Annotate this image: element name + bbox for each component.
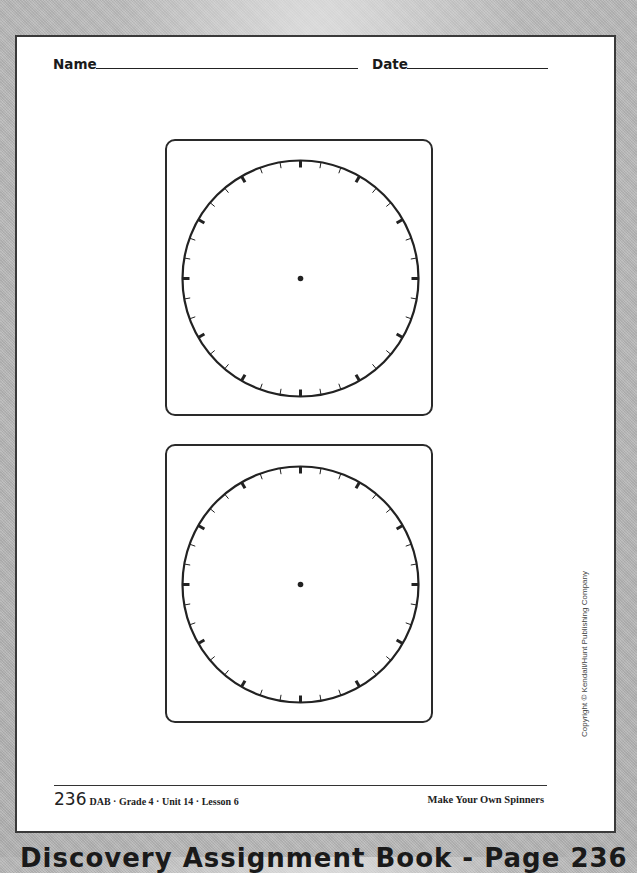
- minor-tick: [386, 656, 391, 660]
- minor-tick: [225, 494, 229, 499]
- major-tick: [356, 176, 360, 182]
- minor-tick: [406, 317, 412, 319]
- spinner-circle-2[interactable]: [167, 446, 435, 725]
- minor-tick: [190, 623, 196, 625]
- minor-tick: [386, 509, 391, 513]
- center-dot: [298, 582, 304, 588]
- footer-page-info: 236DAB · Grade 4 · Unit 14 · Lesson 6: [54, 789, 239, 809]
- minor-tick: [210, 509, 215, 513]
- major-tick: [242, 482, 246, 488]
- minor-tick: [210, 350, 215, 354]
- minor-tick: [372, 494, 376, 499]
- page-number: 236: [54, 789, 86, 809]
- copyright-notice: Copyright © Kendall/Hunt Publishing Comp…: [580, 571, 589, 737]
- major-tick: [242, 176, 246, 182]
- minor-tick: [260, 474, 262, 480]
- book-meta: DAB · Grade 4 · Unit 14 · Lesson 6: [89, 796, 238, 807]
- minor-tick: [386, 203, 391, 207]
- minor-tick: [225, 670, 229, 675]
- major-tick: [198, 526, 204, 530]
- date-field-line[interactable]: [407, 68, 548, 69]
- minor-tick: [339, 168, 341, 174]
- lesson-title: Make Your Own Spinners: [428, 794, 544, 805]
- spinner-box-2: [165, 444, 433, 723]
- minor-tick: [225, 188, 229, 193]
- minor-tick: [386, 350, 391, 354]
- minor-tick: [406, 238, 412, 240]
- minor-tick: [260, 690, 262, 696]
- footer-divider: [54, 785, 547, 786]
- spinner-box-1: [165, 139, 433, 416]
- center-dot: [298, 276, 304, 282]
- worksheet-page: Name Date 236DAB · Grade 4 · Unit 14 · L…: [15, 35, 616, 833]
- name-field-line[interactable]: [96, 68, 358, 69]
- minor-tick: [406, 623, 412, 625]
- minor-tick: [372, 188, 376, 193]
- minor-tick: [225, 364, 229, 369]
- spinner-circle-1[interactable]: [167, 141, 435, 418]
- minor-tick: [339, 474, 341, 480]
- clipped-caption: Discovery Assignment Book - Page 236: [20, 843, 628, 873]
- major-tick: [242, 375, 246, 381]
- minor-tick: [406, 544, 412, 546]
- major-tick: [356, 482, 360, 488]
- minor-tick: [372, 670, 376, 675]
- major-tick: [356, 681, 360, 687]
- major-tick: [397, 220, 403, 224]
- major-tick: [356, 375, 360, 381]
- major-tick: [198, 334, 204, 338]
- major-tick: [198, 640, 204, 644]
- major-tick: [397, 526, 403, 530]
- minor-tick: [339, 384, 341, 390]
- minor-tick: [339, 690, 341, 696]
- major-tick: [242, 681, 246, 687]
- date-label: Date: [372, 56, 408, 72]
- major-tick: [397, 334, 403, 338]
- major-tick: [397, 640, 403, 644]
- minor-tick: [190, 238, 196, 240]
- minor-tick: [260, 168, 262, 174]
- name-label: Name: [53, 56, 97, 72]
- minor-tick: [190, 544, 196, 546]
- minor-tick: [260, 384, 262, 390]
- major-tick: [198, 220, 204, 224]
- minor-tick: [210, 203, 215, 207]
- minor-tick: [210, 656, 215, 660]
- minor-tick: [190, 317, 196, 319]
- minor-tick: [372, 364, 376, 369]
